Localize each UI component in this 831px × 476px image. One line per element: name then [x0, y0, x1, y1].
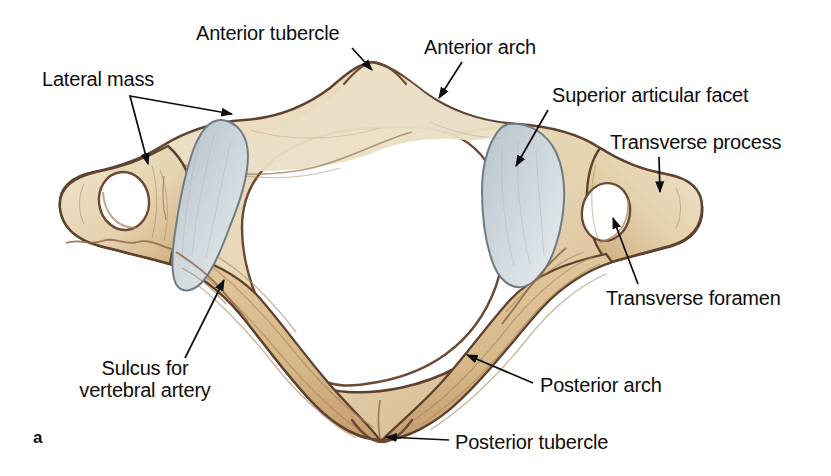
label-posterior-arch: Posterior arch: [540, 374, 662, 396]
label-lateral-mass: Lateral mass: [42, 68, 154, 90]
label-anterior-tubercle: Anterior tubercle: [196, 22, 339, 44]
panel-letter: a: [33, 428, 42, 448]
label-posterior-tubercle: Posterior tubercle: [455, 431, 608, 453]
label-sulcus-for-vertebral-artery: Sulcus for vertebral artery: [45, 357, 245, 402]
leader-sulcus-for-vertebral-artery: [185, 280, 224, 358]
label-transverse-process: Transverse process: [610, 131, 781, 153]
label-transverse-foramen: Transverse foramen: [606, 287, 781, 309]
atlas-vertebra-figure: Anterior tubercle Anterior arch Lateral …: [0, 0, 831, 476]
leader-transverse-process: [659, 157, 660, 192]
label-superior-articular-facet: Superior articular facet: [552, 84, 748, 106]
label-anterior-arch: Anterior arch: [424, 36, 536, 58]
leader-anterior-arch: [439, 62, 462, 98]
